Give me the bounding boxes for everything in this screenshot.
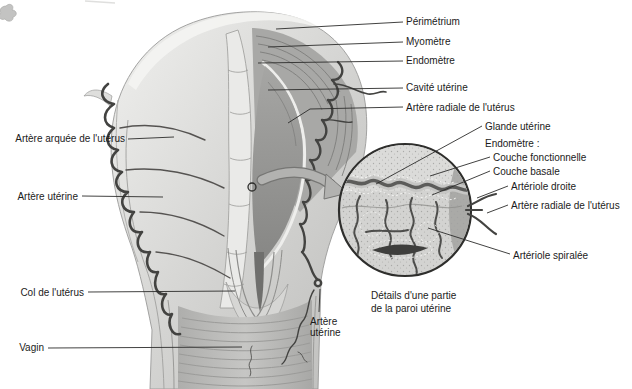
corner-scan-mark bbox=[0, 1, 115, 21]
label-artere-arquee: Artère arquée de l'utérus bbox=[10, 133, 125, 144]
diagram-page: Périmétrium Myomètre Endomètre Cavité ut… bbox=[0, 0, 632, 389]
label-myometre: Myomètre bbox=[406, 36, 450, 47]
label-vagin: Vagin bbox=[10, 342, 44, 353]
label-couche-fonctionnelle: Couche fonctionnelle bbox=[493, 152, 586, 163]
label-glande-uterine: Glande utérine bbox=[485, 121, 551, 132]
label-arteriole-spiralee: Artériole spiralée bbox=[513, 250, 588, 261]
label-cavite-uterine: Cavité utérine bbox=[406, 82, 468, 93]
label-endometre-header: Endomètre : bbox=[485, 138, 539, 149]
label-perimetrium: Périmétrium bbox=[406, 16, 460, 27]
label-artere-radiale-inset: Artère radiale de l'utérus bbox=[511, 200, 620, 211]
wall-detail-inset bbox=[338, 143, 496, 279]
label-col-uterus: Col de l'utérus bbox=[10, 287, 84, 298]
label-couche-basale: Couche basale bbox=[493, 166, 560, 177]
label-arteriole-droite: Artériole droite bbox=[511, 181, 576, 192]
label-artere-radiale: Artère radiale de l'utérus bbox=[406, 102, 515, 113]
inset-caption: Détails d'une partie de la paroi utérine bbox=[371, 289, 456, 315]
label-endometre: Endomètre bbox=[406, 55, 455, 66]
label-artere-uterine-left: Artère utérine bbox=[10, 191, 78, 202]
label-artere-uterine-bottom: Artère utérine bbox=[310, 316, 341, 338]
